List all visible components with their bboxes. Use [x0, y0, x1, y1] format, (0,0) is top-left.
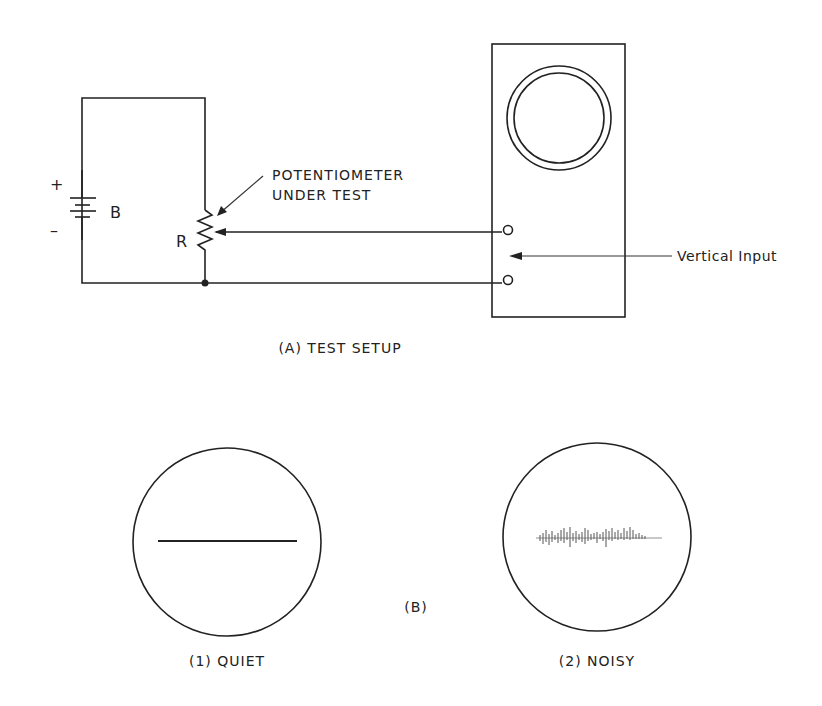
input-terminal-top	[504, 226, 513, 235]
caption-b: (B)	[404, 599, 428, 615]
oscilloscope	[492, 44, 625, 317]
oscilloscope-body	[492, 44, 625, 317]
potentiometer-noise-test-diagram: + – B R POTENTIOMETER UNDER TEST Vertica…	[0, 0, 822, 706]
battery-plus-label: +	[50, 175, 63, 194]
callout-arrow	[217, 176, 263, 216]
vertical-input-arrow	[509, 252, 672, 260]
caption-noisy: (2) NOISY	[559, 653, 635, 669]
vertical-input-label: Vertical Input	[677, 248, 777, 264]
caption-quiet: (1) QUIET	[189, 653, 265, 669]
callout-line-1: POTENTIOMETER	[272, 167, 404, 183]
potentiometer-symbol	[198, 210, 226, 253]
battery-symbol	[70, 170, 96, 240]
potentiometer-label: R	[176, 232, 187, 251]
junction-dot	[202, 280, 209, 287]
input-terminal-bottom	[504, 276, 513, 285]
crt-screen	[514, 73, 604, 163]
scope-trace-quiet	[133, 448, 321, 636]
scope-trace-noisy	[503, 443, 691, 631]
battery-minus-label: –	[50, 221, 58, 240]
crt-bezel-outer	[507, 66, 611, 170]
callout-line-2: UNDER TEST	[272, 187, 371, 203]
battery-label: B	[110, 203, 121, 222]
caption-a: (A) TEST SETUP	[278, 340, 401, 356]
